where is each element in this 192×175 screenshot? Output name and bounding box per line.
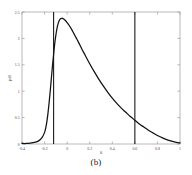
chart-plot-area: -0.4-0.200.20.40.60.81 00.511.522.5 θ pd… <box>0 0 192 175</box>
figure-caption: (b) <box>0 157 192 167</box>
figure-panel-b: -0.4-0.200.20.40.60.81 00.511.522.5 θ pd… <box>0 0 192 175</box>
x-axis-title: θ <box>100 150 102 155</box>
y-tick-label: 1 <box>18 90 20 94</box>
x-tick-label: 0 <box>66 147 68 151</box>
y-tick-label: 2 <box>18 37 20 41</box>
x-tick-label: 0.8 <box>155 147 160 151</box>
x-tick-label: 0.4 <box>110 147 115 151</box>
y-tick-label: 0 <box>18 143 20 147</box>
plot-background <box>0 0 192 175</box>
y-tick-label: 2.5 <box>15 11 20 15</box>
x-tick-label: 1 <box>179 147 181 151</box>
x-tick-label: 0.2 <box>87 147 92 151</box>
y-tick-label: 1.5 <box>15 63 20 67</box>
x-tick-label: -0.2 <box>41 147 47 151</box>
y-axis-title: pdf <box>7 75 12 81</box>
y-tick-label: 0.5 <box>15 116 20 120</box>
x-tick-label: 0.6 <box>132 147 137 151</box>
x-tick-label: -0.4 <box>19 147 25 151</box>
